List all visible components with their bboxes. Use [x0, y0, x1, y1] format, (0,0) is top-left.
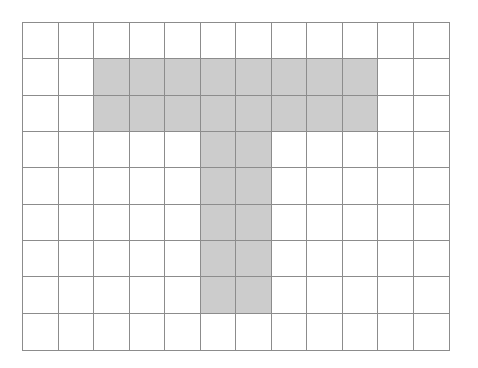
grid-cell: [414, 168, 450, 204]
grid-cell: [307, 241, 343, 277]
grid-cell: [307, 277, 343, 313]
grid-cell: [378, 59, 414, 95]
grid-cell: [94, 314, 130, 350]
shaded-cell: [236, 205, 272, 241]
grid-cell: [130, 277, 166, 313]
grid-cell: [165, 168, 201, 204]
grid-cell: [23, 241, 59, 277]
grid-cell: [23, 59, 59, 95]
grid-cell: [343, 23, 379, 59]
grid-cell: [378, 168, 414, 204]
grid-cell: [378, 23, 414, 59]
grid-cell: [23, 314, 59, 350]
grid-cell: [201, 23, 237, 59]
grid-cell: [94, 168, 130, 204]
shaded-cell: [272, 59, 308, 95]
grid-cell: [59, 314, 95, 350]
grid-cell: [59, 59, 95, 95]
grid-cell: [307, 23, 343, 59]
grid-cell: [414, 241, 450, 277]
grid-cell: [378, 96, 414, 132]
shaded-cell: [165, 59, 201, 95]
grid-cell: [272, 314, 308, 350]
shaded-cell: [236, 96, 272, 132]
grid-cell: [59, 241, 95, 277]
grid-cell: [130, 314, 166, 350]
grid-cell: [414, 132, 450, 168]
grid-cell: [59, 277, 95, 313]
grid-cell: [94, 23, 130, 59]
grid-cell: [343, 241, 379, 277]
grid-cell: [343, 277, 379, 313]
grid-cell: [201, 314, 237, 350]
grid-cell: [59, 168, 95, 204]
grid-cell: [414, 314, 450, 350]
shaded-cell: [343, 59, 379, 95]
shaded-cell: [130, 96, 166, 132]
shaded-cell: [236, 132, 272, 168]
grid-cell: [272, 168, 308, 204]
grid-cell: [414, 59, 450, 95]
shaded-cell: [201, 132, 237, 168]
shaded-cell: [236, 59, 272, 95]
shaded-cell: [307, 59, 343, 95]
shaded-cell: [130, 59, 166, 95]
grid-cell: [130, 132, 166, 168]
grid-cell: [378, 314, 414, 350]
shaded-cell: [201, 277, 237, 313]
shaded-cell: [94, 96, 130, 132]
shaded-cell: [201, 59, 237, 95]
shaded-cell: [236, 168, 272, 204]
grid-cell: [272, 23, 308, 59]
grid-cell: [94, 277, 130, 313]
grid-cell: [94, 132, 130, 168]
grid-cell: [272, 277, 308, 313]
grid-cell: [414, 23, 450, 59]
shaded-cell: [201, 96, 237, 132]
shaded-cell: [201, 241, 237, 277]
grid-cell: [59, 23, 95, 59]
grid-cell: [165, 241, 201, 277]
grid-cell: [236, 23, 272, 59]
shaded-cell: [307, 96, 343, 132]
grid-cell: [130, 23, 166, 59]
grid-cell: [272, 132, 308, 168]
grid-cell: [59, 96, 95, 132]
grid-cell: [23, 277, 59, 313]
shaded-cell: [201, 168, 237, 204]
grid-cell: [59, 205, 95, 241]
grid-diagram: [22, 22, 450, 351]
grid-cell: [307, 132, 343, 168]
grid-cell: [23, 23, 59, 59]
grid-cell: [165, 277, 201, 313]
grid-cell: [130, 205, 166, 241]
grid-cell: [23, 205, 59, 241]
grid-cell: [343, 205, 379, 241]
grid-cell: [272, 205, 308, 241]
grid-cell: [94, 241, 130, 277]
shaded-cell: [343, 96, 379, 132]
shaded-cell: [201, 205, 237, 241]
grid-cell: [414, 205, 450, 241]
grid-cell: [272, 241, 308, 277]
shaded-cell: [236, 241, 272, 277]
grid-cell: [165, 23, 201, 59]
grid-cell: [165, 314, 201, 350]
shaded-cell: [272, 96, 308, 132]
grid-cell: [236, 314, 272, 350]
grid-cell: [343, 314, 379, 350]
grid-cell: [23, 132, 59, 168]
grid-cell: [307, 168, 343, 204]
shaded-cell: [94, 59, 130, 95]
grid-cell: [307, 314, 343, 350]
grid-cell: [414, 96, 450, 132]
grid-cell: [23, 168, 59, 204]
grid-cell: [378, 277, 414, 313]
grid-cell: [378, 241, 414, 277]
grid-cell: [130, 168, 166, 204]
shaded-cell: [165, 96, 201, 132]
grid-cell: [378, 132, 414, 168]
grid-cell: [307, 205, 343, 241]
grid-cell: [165, 132, 201, 168]
grid-cell: [378, 205, 414, 241]
